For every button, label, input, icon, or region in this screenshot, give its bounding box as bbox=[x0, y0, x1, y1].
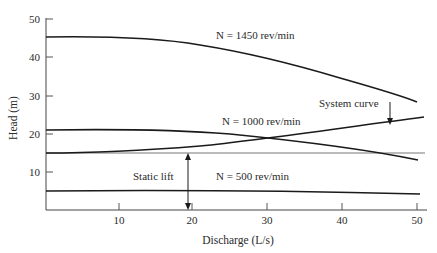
y-tick-label: 10 bbox=[29, 166, 41, 178]
x-tick-labels: 10 20 30 40 50 bbox=[114, 214, 424, 226]
curve-500-rpm bbox=[46, 191, 420, 194]
curve-1000-rpm bbox=[46, 130, 418, 160]
label-1450-rpm: N = 1450 rev/min bbox=[216, 29, 295, 41]
x-tick-label: 30 bbox=[262, 214, 274, 226]
y-tick-label: 50 bbox=[29, 13, 41, 25]
y-tick-label: 30 bbox=[29, 90, 41, 102]
label-system-curve: System curve bbox=[319, 97, 379, 109]
y-axis-title: Head (m) bbox=[7, 96, 20, 140]
x-tick-label: 10 bbox=[114, 214, 126, 226]
x-tick-label: 40 bbox=[337, 214, 349, 226]
x-axis-title: Discharge (L/s) bbox=[202, 234, 274, 247]
y-tick-label: 40 bbox=[29, 51, 41, 63]
y-tick-labels: 50 40 30 20 10 bbox=[29, 13, 41, 178]
y-tick-label: 20 bbox=[29, 128, 41, 140]
curve-labels: N = 1450 rev/min N = 1000 rev/min N = 50… bbox=[133, 29, 379, 182]
curve-1450-rpm bbox=[46, 37, 417, 102]
x-tick-label: 50 bbox=[412, 214, 424, 226]
label-static-lift: Static lift bbox=[133, 170, 174, 182]
pump-curves-chart: 50 40 30 20 10 10 20 30 40 50 Discharge … bbox=[0, 0, 437, 253]
label-500-rpm: N = 500 rev/min bbox=[216, 170, 290, 182]
static-lift-arrow bbox=[185, 153, 191, 210]
x-tick-label: 20 bbox=[187, 214, 199, 226]
label-1000-rpm: N = 1000 rev/min bbox=[222, 115, 301, 127]
